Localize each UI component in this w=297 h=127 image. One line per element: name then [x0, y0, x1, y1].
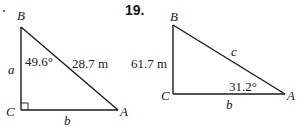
side-label-a-right: 61.7 m [131, 57, 167, 70]
angle-label-a-right: 31.2° [229, 80, 257, 93]
side-label-b-left: b [64, 114, 71, 127]
textbook-figure: B a 49.6° 28.7 m C A b 19. B 61.7 m c 31… [0, 0, 297, 127]
vertex-label-c-left: C [6, 105, 15, 118]
right-angle-mark [21, 103, 28, 110]
vertex-label-a-left: A [120, 105, 128, 118]
side-label-a-left: a [8, 63, 15, 76]
cutoff-mark [3, 10, 5, 12]
vertex-label-b-right: B [170, 10, 178, 23]
vertex-label-c-right: C [161, 89, 170, 102]
vertex-label-b-left: B [17, 9, 25, 22]
side-label-b-right: b [226, 98, 233, 111]
angle-label-b-left: 49.6° [25, 55, 53, 68]
vertex-label-a-right: A [287, 89, 295, 102]
hypotenuse-label-left: 28.7 m [72, 57, 108, 70]
side-label-c-right: c [231, 45, 237, 58]
problem-number: 19. [125, 3, 144, 17]
